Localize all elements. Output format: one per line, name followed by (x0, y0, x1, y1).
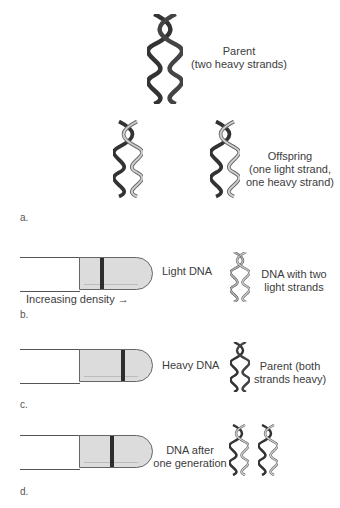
hybrid-helix-right-icon (258, 424, 278, 476)
offspring-helix-right-icon (210, 114, 240, 204)
offspring-helix-left-icon (113, 114, 143, 204)
heavy-dna-label: Heavy DNA (162, 359, 219, 372)
hybrid-dna-band (110, 436, 114, 467)
offspring-label: Offspring (one light strand, one heavy s… (240, 150, 340, 189)
light-dna-band (100, 258, 104, 289)
heavy-dna-band (121, 350, 125, 381)
panel-letter-c: c. (20, 399, 28, 410)
hybrid-helix-left-icon (229, 424, 249, 476)
panel-letter-b: b. (20, 309, 28, 320)
arrow-right-icon: → (118, 293, 129, 305)
panel-letter-d: d. (20, 486, 28, 497)
density-axis-label: Increasing density → (26, 293, 129, 306)
centrifuge-tube-gradient (79, 349, 153, 382)
parent-helix-icon (147, 14, 183, 104)
panel-letter-a: a. (20, 212, 28, 223)
parent-both-heavy-label: Parent (both strands heavy) (250, 360, 330, 386)
centrifuge-tube-empty (20, 349, 80, 384)
light-light-helix-icon (230, 252, 250, 302)
centrifuge-tube-gradient (79, 257, 153, 290)
parent-label: Parent (two heavy strands) (186, 45, 292, 71)
centrifuge-tube-empty (20, 435, 80, 470)
light-dna-label: Light DNA (162, 265, 212, 278)
dna-after-generation-label: DNA after one generation (152, 444, 228, 470)
centrifuge-tube-gradient (79, 435, 153, 468)
light-strands-label: DNA with two light strands (254, 268, 334, 294)
heavy-heavy-helix-icon (230, 342, 250, 392)
centrifuge-tube-empty (20, 257, 80, 292)
